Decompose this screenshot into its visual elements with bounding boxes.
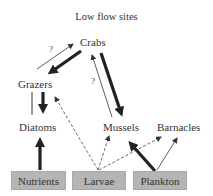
food-web-arrows [0,0,213,196]
arrow-crabs-to-mussels [101,53,121,113]
source-larvae: Larvae [72,171,126,190]
uncertain-mark: ? [91,76,95,86]
arrow-plankton-to-barnacles [157,138,177,170]
arrow-larvae-to-mussels [98,136,109,170]
node-diatoms: Diatoms [19,121,56,133]
source-nutrients: Nutrients [11,171,66,190]
node-barnacles: Barnacles [157,121,200,133]
arrow-larvae-to-grazers [55,97,98,170]
source-plankton: Plankton [133,171,187,190]
arrow-crabs-to-grazers [51,51,81,72]
uncertain-mark: ? [49,44,53,54]
node-grazers: Grazers [18,78,52,90]
arrow-grazers-to-crabs [37,44,73,69]
arrow-plankton-to-mussels [131,144,155,171]
arrow-mussels-to-crabs [92,55,112,117]
node-mussels: Mussels [103,121,139,133]
node-crabs: Crabs [80,36,106,48]
